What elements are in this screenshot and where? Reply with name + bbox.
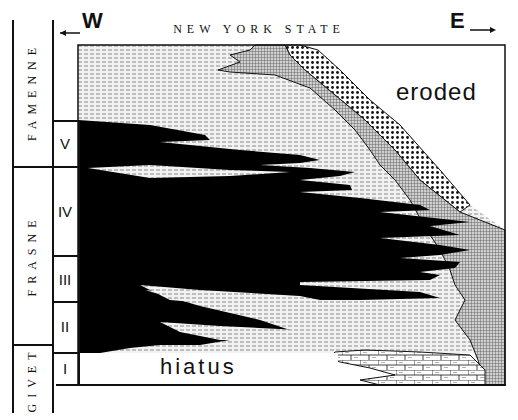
hiatus-label: hiatus (160, 354, 237, 380)
figure-title: NEW YORK STATE (0, 22, 518, 37)
zone-column-right-border (78, 120, 80, 385)
eroded-label: eroded (396, 78, 477, 106)
stage-label-givet: GIVET (25, 320, 40, 420)
zone-boundary (52, 301, 78, 303)
zone-label-i: I (52, 360, 78, 377)
zone-label-iv: IV (52, 203, 78, 220)
stage-label-frasne: FRASNE (25, 196, 40, 316)
zone-label-v: V (52, 135, 78, 152)
famenne-frasne-boundary (12, 166, 52, 168)
zone-boundary (52, 166, 78, 168)
zone-boundary (52, 120, 78, 122)
zone-boundary (52, 255, 78, 257)
east-label: E (450, 8, 465, 34)
zone-label-iii: III (52, 271, 78, 288)
stage-column-left-border (12, 20, 14, 413)
zone-label-ii: II (52, 318, 78, 335)
west-label: W (82, 8, 103, 34)
diagram-base-line (56, 384, 506, 386)
zone-boundary (52, 352, 78, 354)
stage-label-famenne: FAMENNE (25, 32, 40, 152)
limestone-unit (330, 350, 485, 385)
